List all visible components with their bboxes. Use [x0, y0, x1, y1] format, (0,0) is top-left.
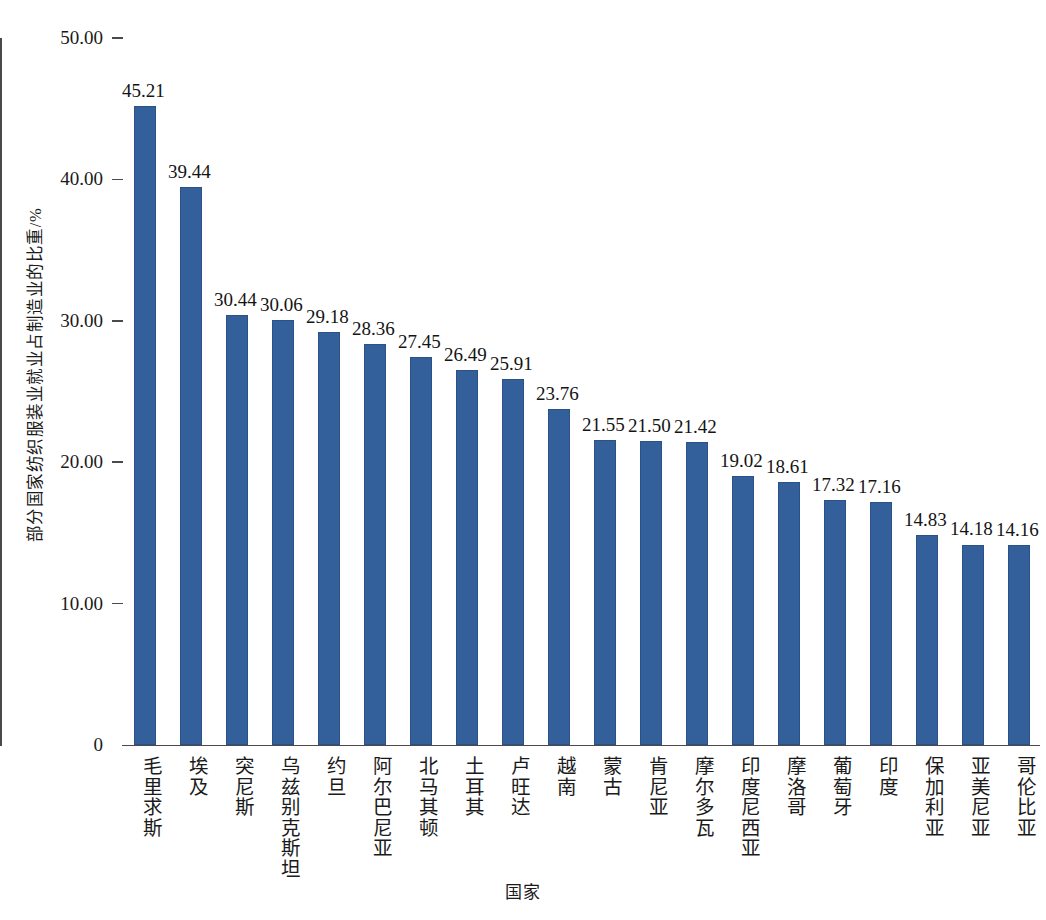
x-category-label: 摩尔多瓦 [682, 756, 712, 838]
x-category-label: 埃及 [176, 756, 206, 797]
bar-value-label: 17.32 [812, 474, 855, 496]
bar[interactable] [732, 476, 754, 745]
x-category-label: 突尼斯 [222, 756, 252, 818]
bar-value-label: 14.16 [996, 519, 1039, 541]
x-category-label: 乌兹别克斯坦 [268, 756, 298, 879]
y-tick-label: 0 [0, 734, 112, 756]
y-tick-label: 10.00 [0, 593, 112, 615]
bar[interactable] [916, 535, 938, 745]
bar[interactable] [686, 442, 708, 745]
bar[interactable] [318, 332, 340, 745]
bar-chart-figure: 部分国家纺织服装业就业占制造业的比重/% 010.0020.0030.0040.… [0, 0, 1046, 920]
bar-value-label: 39.44 [168, 161, 211, 183]
x-category-label: 阿尔巴尼亚 [360, 756, 390, 859]
bar[interactable] [226, 315, 248, 745]
x-category-label: 葡萄牙 [820, 756, 850, 818]
x-category-label: 亚美尼亚 [958, 756, 988, 838]
bar[interactable] [640, 441, 662, 745]
x-category-label: 印度 [866, 756, 896, 797]
x-category-label: 保加利亚 [912, 756, 942, 838]
bar[interactable] [778, 482, 800, 745]
x-category-label: 约旦 [314, 756, 344, 797]
x-category-label: 卢旺达 [498, 756, 528, 818]
bar[interactable] [502, 379, 524, 745]
x-axis-title: 国家 [0, 878, 1046, 903]
bar[interactable] [364, 344, 386, 745]
y-tick-label: 50.00 [0, 27, 112, 49]
bar-value-label: 26.49 [444, 344, 487, 366]
x-category-label: 摩洛哥 [774, 756, 804, 818]
bar-value-label: 29.18 [306, 306, 349, 328]
y-axis-line [0, 38, 2, 746]
bar[interactable] [962, 545, 984, 746]
bar-value-label: 27.45 [398, 331, 441, 353]
x-category-label: 哥伦比亚 [1004, 756, 1034, 838]
bar-value-label: 28.36 [352, 318, 395, 340]
bar-value-label: 18.61 [766, 456, 809, 478]
bar[interactable] [548, 409, 570, 745]
x-category-label: 毛里求斯 [130, 756, 160, 838]
y-axis-title: 部分国家纺织服装业就业占制造业的比重/% [16, 5, 52, 745]
bar-value-label: 30.44 [214, 289, 257, 311]
y-tick-label: 30.00 [0, 310, 112, 332]
x-category-label: 越南 [544, 756, 574, 797]
bar[interactable] [456, 370, 478, 745]
bar-value-label: 19.02 [720, 450, 763, 472]
bar[interactable] [824, 500, 846, 745]
bar-value-label: 23.76 [536, 383, 579, 405]
bar-value-label: 14.83 [904, 509, 947, 531]
bar-value-label: 21.42 [674, 416, 717, 438]
bar[interactable] [410, 357, 432, 745]
bar[interactable] [180, 187, 202, 745]
y-tick-label: 40.00 [0, 168, 112, 190]
y-tick-label: 20.00 [0, 451, 112, 473]
bar[interactable] [594, 440, 616, 745]
bar-value-label: 21.50 [628, 415, 671, 437]
bar-value-label: 14.18 [950, 518, 993, 540]
x-category-label: 印度尼西亚 [728, 756, 758, 859]
x-category-label: 肯尼亚 [636, 756, 666, 818]
x-category-label: 蒙古 [590, 756, 620, 797]
bar-value-label: 17.16 [858, 476, 901, 498]
bar-value-label: 21.55 [582, 414, 625, 436]
x-category-label: 北马其顿 [406, 756, 436, 838]
bar[interactable] [870, 502, 892, 745]
bar-value-label: 45.21 [122, 80, 165, 102]
bar[interactable] [272, 320, 294, 745]
plot-area [122, 38, 1040, 745]
bar[interactable] [134, 106, 156, 745]
bar-value-label: 30.06 [260, 294, 303, 316]
bar[interactable] [1008, 545, 1030, 745]
bar-value-label: 25.91 [490, 353, 533, 375]
x-category-label: 土耳其 [452, 756, 482, 818]
